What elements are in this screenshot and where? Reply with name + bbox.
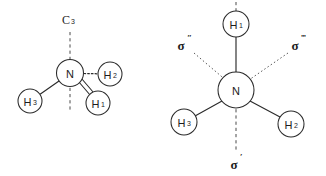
left-h1-subscript: 1 (101, 101, 105, 108)
molecule-diagram-svg: N H 1 H 2 H 3 C 3 (0, 0, 326, 176)
right-h1-subscript: 1 (239, 22, 243, 29)
sigma-prime-primes: ′ (240, 152, 243, 162)
sigma-double-prime-label: σ (177, 38, 184, 53)
left-h2-label: H (104, 69, 112, 81)
left-structure-group: N H 1 H 2 H 3 C 3 (18, 13, 122, 115)
bond-n-h3-plain (39, 81, 59, 95)
right-h2-subscript: 2 (294, 122, 298, 129)
sigma-triple-prime-label: σ (291, 38, 298, 53)
right-h2-label: H (285, 119, 293, 131)
right-h3-subscript: 3 (187, 120, 191, 127)
c3-axis-label: C (62, 13, 70, 27)
bond-n-h2-plain (250, 101, 280, 117)
left-h1-label: H (92, 98, 100, 110)
left-h3-label: H (24, 96, 32, 108)
chemistry-figure: N H 1 H 2 H 3 C 3 (0, 0, 326, 176)
right-structure-group: N H 1 H 2 H 3 σ ″ σ ‴ σ ′ (171, 2, 306, 172)
sigma-triple-prime-primes: ‴ (301, 33, 306, 43)
c3-axis-subscript: 3 (71, 18, 75, 25)
left-nitrogen-label: N (66, 68, 74, 80)
bond-n-h3-plain (195, 101, 222, 116)
right-h1-label: H (230, 19, 238, 31)
right-nitrogen-label: N (232, 85, 240, 97)
right-h3-label: H (178, 117, 186, 129)
sigma-double-prime-primes: ″ (187, 33, 192, 43)
left-h2-subscript: 2 (113, 72, 117, 79)
left-h3-subscript: 3 (33, 99, 37, 106)
sigma-prime-label: σ (230, 157, 237, 172)
sigma-triple-prime-line (246, 53, 288, 82)
